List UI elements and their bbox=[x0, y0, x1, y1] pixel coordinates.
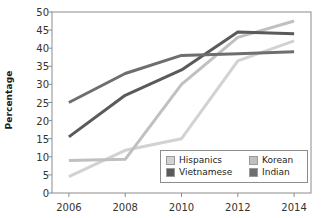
legend-swatch-icon bbox=[166, 168, 175, 177]
y-axis-ticks bbox=[48, 12, 52, 193]
legend-label: Hispanics bbox=[179, 155, 222, 166]
plot-area bbox=[0, 0, 325, 218]
legend-swatch-icon bbox=[166, 156, 175, 165]
legend-label: Vietnamese bbox=[179, 167, 232, 178]
series-line-indian bbox=[69, 52, 294, 103]
legend-label: Korean bbox=[262, 155, 293, 166]
legend-swatch-icon bbox=[249, 156, 258, 165]
legend-entry-hispanics[interactable]: Hispanics bbox=[166, 155, 241, 166]
legend-entry-vietnamese[interactable]: Vietnamese bbox=[166, 167, 241, 178]
legend-entry-indian[interactable]: Indian bbox=[249, 167, 302, 178]
legend-label: Indian bbox=[262, 167, 290, 178]
legend-entry-korean[interactable]: Korean bbox=[249, 155, 302, 166]
line-chart: Percentage 05101520253035404550 20062008… bbox=[0, 0, 325, 218]
chart-legend: HispanicsKoreanVietnameseIndian bbox=[160, 150, 308, 183]
legend-swatch-icon bbox=[249, 168, 258, 177]
x-axis-ticks bbox=[69, 193, 294, 197]
